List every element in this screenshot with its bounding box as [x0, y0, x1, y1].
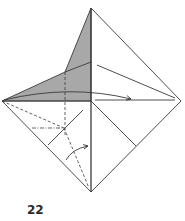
step-number-label: 22	[27, 203, 44, 217]
fold-up-arrow-icon	[66, 146, 88, 160]
shaded-flap	[2, 8, 91, 101]
origami-step-diagram	[0, 0, 185, 221]
